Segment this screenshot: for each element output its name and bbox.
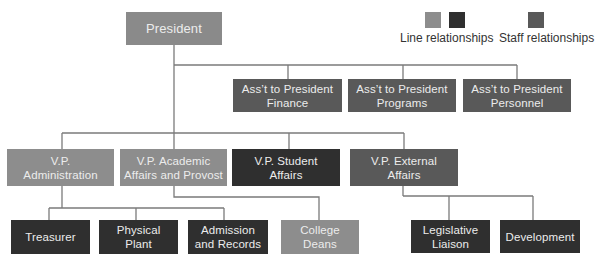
node-asst-finance: Ass’t to PresidentFinance [233, 79, 342, 112]
node-vp-academic: V.P. AcademicAffairs and Provost [120, 149, 227, 186]
node-label-line1: Ass’t to President [242, 82, 333, 96]
legend-swatch-line-dark [449, 12, 465, 28]
legend-swatch-staff [528, 12, 544, 28]
node-label: President [146, 22, 202, 36]
node-treasurer: Treasurer [11, 220, 90, 254]
node-label-line2: Liaison [423, 237, 478, 251]
node-asst-programs: Ass’t to PresidentPrograms [348, 79, 456, 112]
node-legislative-liaison: LegislativeLiaison [411, 220, 490, 253]
node-label-line2: Personnel [471, 96, 562, 110]
node-label-line1: Legislative [423, 223, 478, 237]
node-label-line2: Finance [242, 96, 333, 110]
node-label-line1: Admission [195, 223, 261, 237]
node-label-line2: and Records [195, 237, 261, 251]
node-label-line2: Plant [117, 237, 161, 251]
node-vp-administration: V.P.Administration [7, 149, 114, 186]
legend-swatch-line-light [425, 12, 441, 28]
node-label-line2: Programs [356, 96, 447, 110]
node-asst-personnel: Ass’t to PresidentPersonnel [463, 79, 571, 112]
node-label-line2: Affairs [254, 168, 317, 182]
node-label-line2: Deans [300, 237, 340, 251]
node-label-line2: Affairs [371, 168, 437, 182]
node-label-line1: Ass’t to President [356, 82, 447, 96]
legend-label-staff: Staff relationships [499, 31, 594, 45]
node-label-line1: Physical [117, 223, 161, 237]
node-label-line2: Administration [23, 168, 97, 182]
node-admission-records: Admissionand Records [188, 220, 268, 254]
node-development: Development [500, 220, 580, 253]
node-label-line1: Development [506, 230, 575, 244]
node-label-line1: V.P. [23, 154, 97, 168]
node-label-line1: Treasurer [25, 230, 75, 244]
node-label-line2: Affairs and Provost [124, 168, 223, 182]
node-label-line1: V.P. Academic [124, 154, 223, 168]
node-label-line1: College [300, 223, 340, 237]
node-president: President [126, 12, 222, 45]
node-label-line1: V.P. Student [254, 154, 317, 168]
legend-label-line: Line relationships [400, 31, 493, 45]
node-label-line1: V.P. External [371, 154, 437, 168]
node-vp-external: V.P. ExternalAffairs [350, 149, 458, 186]
connector-college-deans [174, 186, 319, 220]
node-college-deans: CollegeDeans [281, 220, 359, 254]
node-physical-plant: PhysicalPlant [99, 220, 178, 254]
node-vp-student: V.P. StudentAffairs [232, 149, 340, 186]
node-label-line1: Ass’t to President [471, 82, 562, 96]
